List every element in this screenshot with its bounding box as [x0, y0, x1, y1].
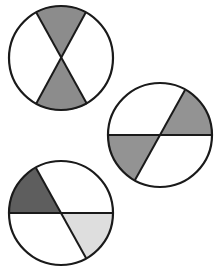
circle-1: [9, 6, 113, 111]
circles-diagram: [0, 0, 223, 271]
circle-2: [108, 83, 212, 187]
circle-3: [9, 161, 113, 265]
figure-canvas: [0, 0, 223, 271]
